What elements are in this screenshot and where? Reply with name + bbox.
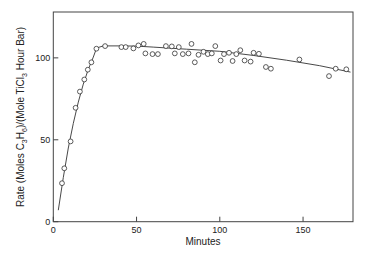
data-point-marker xyxy=(103,44,108,49)
data-point-marker xyxy=(85,67,90,72)
data-point-marker xyxy=(227,50,232,55)
x-tick-label: 50 xyxy=(132,225,142,235)
data-point-marker xyxy=(156,52,161,57)
data-point-marker xyxy=(230,59,235,64)
data-point-marker xyxy=(143,51,148,56)
data-point-marker xyxy=(164,44,169,49)
data-point-marker xyxy=(209,51,214,56)
fit-line-group xyxy=(58,46,350,210)
data-point-marker xyxy=(94,46,99,51)
data-point-marker xyxy=(269,66,274,71)
data-point-marker xyxy=(131,46,136,51)
data-point-marker xyxy=(60,181,65,186)
data-point-marker xyxy=(186,51,191,56)
chart-container: 050100150050100 Minutes Rate (Moles C3H6… xyxy=(0,0,370,257)
data-point-marker xyxy=(62,166,67,171)
data-point-marker xyxy=(234,52,239,57)
data-point-marker xyxy=(89,60,94,65)
data-point-marker xyxy=(333,66,338,71)
y-tick-label: 100 xyxy=(35,53,50,63)
data-point-marker xyxy=(78,89,83,94)
x-tick-label: 150 xyxy=(296,225,311,235)
data-point-marker xyxy=(297,57,302,62)
data-point-marker xyxy=(327,74,332,79)
data-point-marker xyxy=(242,58,247,63)
data-point-marker xyxy=(141,42,146,47)
data-point-marker xyxy=(344,67,349,72)
plot-frame xyxy=(53,12,353,222)
chart-svg: 050100150050100 Minutes Rate (Moles C3H6… xyxy=(0,0,370,257)
data-point-marker xyxy=(248,59,253,64)
axis-ticks: 050100150050100 xyxy=(35,53,310,235)
data-point-marker xyxy=(257,51,262,56)
data-point-marker xyxy=(218,58,223,63)
data-point-marker xyxy=(172,51,177,56)
data-point-marker xyxy=(213,44,218,49)
y-axis-title: Rate (Moles C3H6)/(Mole TiCl3 Hour Bar) xyxy=(15,27,28,207)
data-point-marker xyxy=(150,52,155,57)
data-point-marker xyxy=(196,52,201,57)
y-tick-label: 50 xyxy=(40,135,50,145)
fit-line xyxy=(58,46,350,210)
data-point-marker xyxy=(264,65,269,70)
data-point-marker xyxy=(189,42,194,47)
data-point-marker xyxy=(192,60,197,65)
x-axis-title: Minutes xyxy=(185,236,220,247)
data-point-marker xyxy=(82,77,87,82)
x-tick-label: 0 xyxy=(51,225,56,235)
data-point-marker xyxy=(251,50,256,55)
y-tick-label: 0 xyxy=(45,217,50,227)
data-point-marker xyxy=(136,43,141,48)
data-point-marker xyxy=(176,45,181,50)
x-tick-label: 100 xyxy=(212,225,227,235)
data-point-marker xyxy=(123,45,128,50)
data-point-marker xyxy=(68,139,73,144)
data-point-marker xyxy=(169,44,174,49)
data-point-marker xyxy=(238,48,243,53)
data-point-marker xyxy=(180,52,185,57)
data-point-marker xyxy=(222,52,227,57)
data-point-marker xyxy=(73,105,78,110)
